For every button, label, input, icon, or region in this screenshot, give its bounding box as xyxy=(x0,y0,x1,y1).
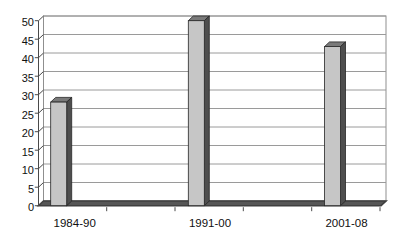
y-tick-label-20: 20 xyxy=(22,127,34,139)
y-tick-label-30: 30 xyxy=(22,90,34,102)
y-tick-depth-50 xyxy=(39,16,44,21)
y-tick-depth-15 xyxy=(39,146,44,151)
x-category-label-0: 1984-90 xyxy=(54,217,96,229)
bar-1991-00 xyxy=(188,16,209,206)
x-category-label-1: 1991-00 xyxy=(189,217,231,229)
bar-side-face xyxy=(67,97,72,205)
y-tick-depth-40 xyxy=(39,53,44,58)
y-tick-label-40: 40 xyxy=(22,53,34,65)
y-tick-depth-45 xyxy=(39,35,44,40)
y-tick-label-15: 15 xyxy=(22,146,34,158)
y-tick-label-35: 35 xyxy=(22,72,34,84)
bar-2001-08 xyxy=(325,42,346,206)
bar-side-face xyxy=(204,16,209,206)
y-tick-label-25: 25 xyxy=(22,109,34,121)
y-tick-label-45: 45 xyxy=(22,35,34,47)
bar-1984-90 xyxy=(51,97,72,205)
y-tick-depth-10 xyxy=(39,164,44,169)
chart-canvas: 051015202530354045501984-901991-002001-0… xyxy=(0,0,406,237)
bar-chart-3d: 051015202530354045501984-901991-002001-0… xyxy=(0,0,406,237)
y-tick-depth-30 xyxy=(39,90,44,95)
y-tick-label-50: 50 xyxy=(22,16,34,28)
bar-front-face xyxy=(325,47,341,206)
y-tick-depth-20 xyxy=(39,127,44,132)
x-category-label-2: 2001-08 xyxy=(325,217,367,229)
y-tick-label-5: 5 xyxy=(28,183,34,195)
bar-front-face xyxy=(51,102,67,206)
y-tick-depth-35 xyxy=(39,72,44,77)
y-tick-depth-5 xyxy=(39,183,44,188)
bar-side-face xyxy=(341,42,346,206)
y-tick-label-0: 0 xyxy=(28,201,34,213)
y-tick-depth-25 xyxy=(39,109,44,114)
bar-front-face xyxy=(188,21,204,206)
y-tick-label-10: 10 xyxy=(22,164,34,176)
